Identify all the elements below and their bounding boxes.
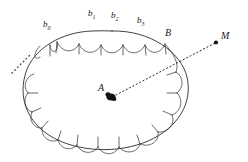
geometry-figure: b0 b1 b2 b3 B A M bbox=[0, 0, 248, 162]
scallop-arc bbox=[176, 72, 182, 93]
scallop-arc bbox=[158, 115, 173, 132]
continuation-ellipsis bbox=[12, 54, 31, 73]
cusp-tick-group bbox=[28, 42, 177, 147]
label-point-B: B bbox=[165, 28, 171, 38]
scallop-arc bbox=[25, 74, 34, 93]
scallop-arc bbox=[98, 147, 119, 154]
cusp-tick bbox=[77, 135, 78, 145]
scallop-arc bbox=[145, 44, 165, 52]
figure-canvas bbox=[0, 0, 248, 162]
label-b0: b0 bbox=[43, 20, 51, 31]
cusp-tick bbox=[32, 108, 41, 112]
cusp-tick bbox=[152, 125, 158, 132]
cusp-tick bbox=[167, 72, 176, 75]
scallop-arc bbox=[101, 45, 123, 53]
label-b2: b2 bbox=[111, 11, 119, 22]
scallop-arc bbox=[123, 45, 145, 53]
cusp-tick bbox=[137, 135, 140, 144]
cusp-tick bbox=[42, 121, 48, 128]
label-b1: b1 bbox=[88, 9, 96, 20]
label-point-M: M bbox=[221, 31, 229, 41]
scallop-arc bbox=[79, 44, 101, 52]
scallop-arc bbox=[172, 93, 181, 115]
label-b3: b3 bbox=[137, 16, 145, 27]
cusp-tick bbox=[58, 131, 61, 140]
scallop-arc bbox=[57, 42, 79, 51]
point-A-marker bbox=[105, 92, 116, 101]
scallop-decoration-group bbox=[25, 42, 182, 154]
cusp-tick bbox=[163, 111, 172, 115]
point-M-marker bbox=[214, 40, 218, 44]
label-point-A: A bbox=[98, 83, 104, 93]
scallop-arc bbox=[25, 93, 32, 112]
cusp-tick bbox=[56, 42, 57, 53]
